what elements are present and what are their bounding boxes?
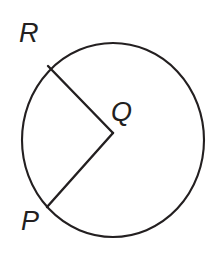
vertex-label-r: R: [19, 18, 39, 48]
geometry-canvas: R Q P: [0, 0, 218, 254]
circle-outline: [22, 43, 204, 237]
vertex-label-q: Q: [111, 97, 132, 127]
radius-segment-qr: [48, 66, 113, 133]
vertex-label-p: P: [21, 206, 39, 236]
radius-segment-qp: [47, 133, 113, 207]
geometry-figure: R Q P: [0, 0, 218, 254]
